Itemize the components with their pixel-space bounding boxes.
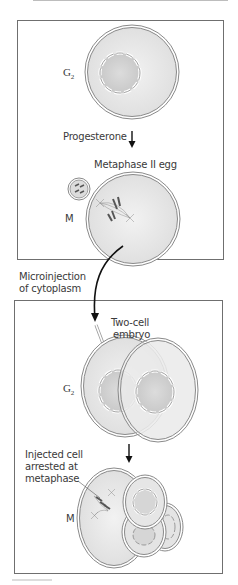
stage-label-m-bottom: M <box>66 513 74 525</box>
caption-stub <box>12 579 52 581</box>
arrest-label-line1: Injected cell <box>25 449 83 461</box>
metaphase-egg-label: Metaphase II egg <box>94 159 177 171</box>
two-cell-embryo-label-line1: Two-cell <box>111 317 149 329</box>
stage-label-g2-bottom: G2 <box>63 382 74 399</box>
stage-label-g2-top: G2 <box>63 66 74 83</box>
arrest-label-line3: metaphase <box>25 473 79 485</box>
progesterone-arrow-icon <box>129 131 136 148</box>
stage-label-m-top: M <box>65 213 73 225</box>
arrested-embryo <box>77 468 183 568</box>
progesterone-label: Progesterone <box>63 131 127 143</box>
metaphase-egg <box>68 172 180 266</box>
two-cell-embryo-g2 <box>81 335 198 442</box>
microinjection-label-line2: of cytoplasm <box>19 283 81 295</box>
two-cell-embryo-label-line2: embryo <box>113 329 150 341</box>
down-arrow-icon <box>126 444 133 463</box>
g2-oocyte <box>85 25 179 119</box>
arrest-label-line2: arrested at <box>25 461 78 473</box>
microinjection-label-line1: Microinjection <box>19 271 86 283</box>
